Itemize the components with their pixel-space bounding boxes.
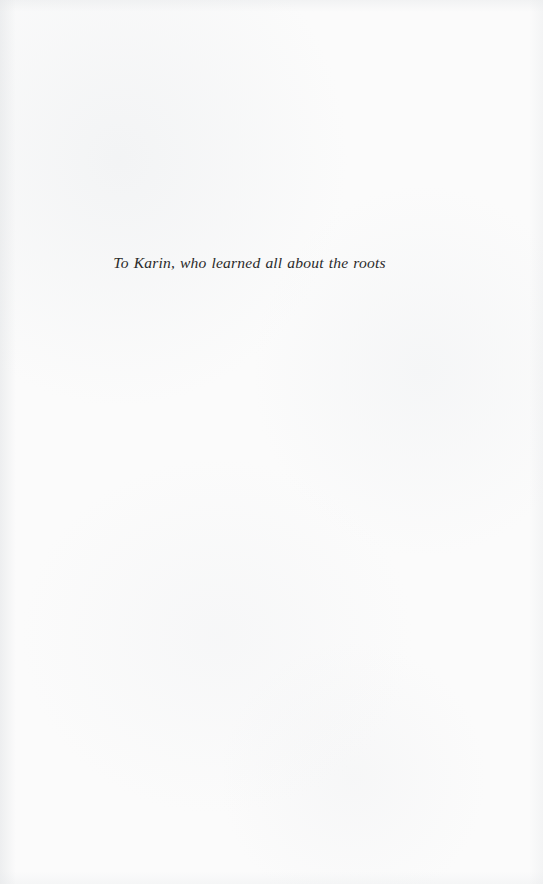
dedication-page: To Karin, who learned all about the root… (0, 0, 543, 884)
paper-texture (0, 0, 543, 884)
page-edge-shading (0, 0, 543, 884)
dedication-text: To Karin, who learned all about the root… (113, 253, 385, 273)
dedication-block: To Karin, who learned all about the root… (0, 253, 543, 273)
